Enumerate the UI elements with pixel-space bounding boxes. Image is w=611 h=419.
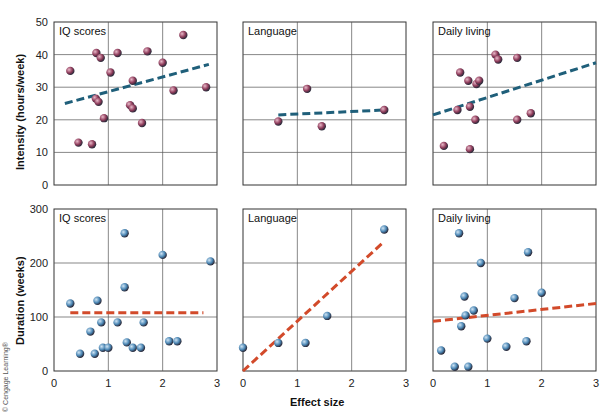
svg-text:2: 2 <box>539 377 545 389</box>
panel-language-duration: 0123Language <box>239 209 409 389</box>
data-point <box>466 103 474 111</box>
data-point <box>494 55 502 63</box>
data-point <box>129 104 137 112</box>
svg-text:Language: Language <box>248 25 297 37</box>
data-point <box>455 229 463 237</box>
data-point <box>451 362 459 370</box>
data-point <box>318 122 326 130</box>
data-point <box>137 344 145 352</box>
data-point <box>169 86 177 94</box>
data-point <box>97 318 105 326</box>
data-point <box>437 346 445 354</box>
data-point <box>129 344 137 352</box>
data-point <box>86 327 94 335</box>
data-point <box>303 85 311 93</box>
data-point <box>380 225 388 233</box>
data-point <box>139 318 147 326</box>
data-point <box>440 142 448 150</box>
data-point <box>104 344 112 352</box>
svg-text:Daily living: Daily living <box>438 212 491 224</box>
svg-text:IQ scores: IQ scores <box>59 25 107 37</box>
data-point <box>113 318 121 326</box>
data-point <box>502 343 510 351</box>
svg-text:0: 0 <box>240 377 246 389</box>
data-point <box>380 106 388 114</box>
data-point <box>461 311 469 319</box>
data-point <box>94 98 102 106</box>
svg-text:3: 3 <box>403 377 409 389</box>
data-point <box>138 119 146 127</box>
svg-text:40: 40 <box>36 49 48 61</box>
svg-text:1: 1 <box>484 377 490 389</box>
data-point <box>323 312 331 320</box>
svg-text:50: 50 <box>36 16 48 28</box>
data-point <box>129 76 137 84</box>
data-point <box>457 322 465 330</box>
data-point <box>477 259 485 267</box>
svg-text:1: 1 <box>294 377 300 389</box>
svg-text:100: 100 <box>30 311 48 323</box>
x-axis-label: Effect size <box>290 396 344 408</box>
svg-text:Language: Language <box>248 212 297 224</box>
data-point <box>106 68 114 76</box>
svg-text:20: 20 <box>36 114 48 126</box>
svg-text:3: 3 <box>593 377 599 389</box>
data-point <box>88 140 96 148</box>
data-point <box>100 114 108 122</box>
scatter-figure: 01020304050IQ scoresLanguageDaily living… <box>0 0 611 419</box>
data-point <box>537 289 545 297</box>
panel-iq-scores-duration: 01002003000123IQ scores <box>30 203 220 389</box>
data-point <box>74 138 82 146</box>
data-point <box>522 337 530 345</box>
svg-text:300: 300 <box>30 203 48 215</box>
svg-text:10: 10 <box>36 146 48 158</box>
svg-text:3: 3 <box>214 377 220 389</box>
data-point <box>456 68 464 76</box>
copyright-credit: © Cengage Learning® <box>2 342 9 412</box>
data-point <box>179 31 187 39</box>
data-point <box>483 334 491 342</box>
data-point <box>464 362 472 370</box>
panel-daily-living-duration: 0123Daily living <box>430 209 599 389</box>
data-point <box>202 83 210 91</box>
data-point <box>466 145 474 153</box>
data-point <box>274 339 282 347</box>
data-point <box>173 337 181 345</box>
data-point <box>66 299 74 307</box>
data-point <box>239 344 247 352</box>
data-point <box>165 337 173 345</box>
svg-text:Daily living: Daily living <box>438 25 491 37</box>
data-point <box>524 248 532 256</box>
data-point <box>274 117 282 125</box>
svg-text:0: 0 <box>42 179 48 191</box>
data-point <box>475 76 483 84</box>
data-point <box>527 109 535 117</box>
data-point <box>301 339 309 347</box>
data-point <box>66 67 74 75</box>
data-point <box>513 54 521 62</box>
panel-daily-living-intensity: Daily living <box>433 22 596 185</box>
data-point <box>143 47 151 55</box>
svg-text:0: 0 <box>430 377 436 389</box>
data-point <box>91 350 99 358</box>
svg-text:30: 30 <box>36 81 48 93</box>
svg-text:0: 0 <box>51 377 57 389</box>
data-point <box>206 257 214 265</box>
panel-iq-scores-intensity: 01020304050IQ scores <box>36 16 217 191</box>
svg-text:200: 200 <box>30 257 48 269</box>
y-axis-label-duration: Duration (weeks) <box>14 256 26 345</box>
data-point <box>120 229 128 237</box>
data-point <box>471 116 479 124</box>
data-point <box>470 306 478 314</box>
data-point <box>76 350 84 358</box>
data-point <box>453 106 461 114</box>
data-point <box>513 116 521 124</box>
data-point <box>120 283 128 291</box>
y-axis-label-intensity: Intensity (hours/week) <box>14 54 26 170</box>
data-point <box>158 59 166 67</box>
panel-language-intensity: Language <box>243 22 406 185</box>
data-point <box>460 292 468 300</box>
data-point <box>93 297 101 305</box>
svg-text:1: 1 <box>105 377 111 389</box>
data-point <box>158 251 166 259</box>
